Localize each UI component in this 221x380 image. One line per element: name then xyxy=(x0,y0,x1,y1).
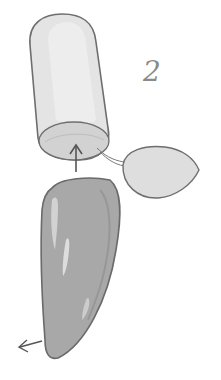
left-arrow-icon xyxy=(19,340,42,352)
step-number-label: 2 xyxy=(143,55,161,88)
pepper-shape xyxy=(41,178,120,358)
illustration-canvas: 2 xyxy=(0,0,221,380)
illustration-svg xyxy=(0,0,221,380)
cap-shape xyxy=(123,147,199,198)
tube-shape xyxy=(30,14,109,160)
